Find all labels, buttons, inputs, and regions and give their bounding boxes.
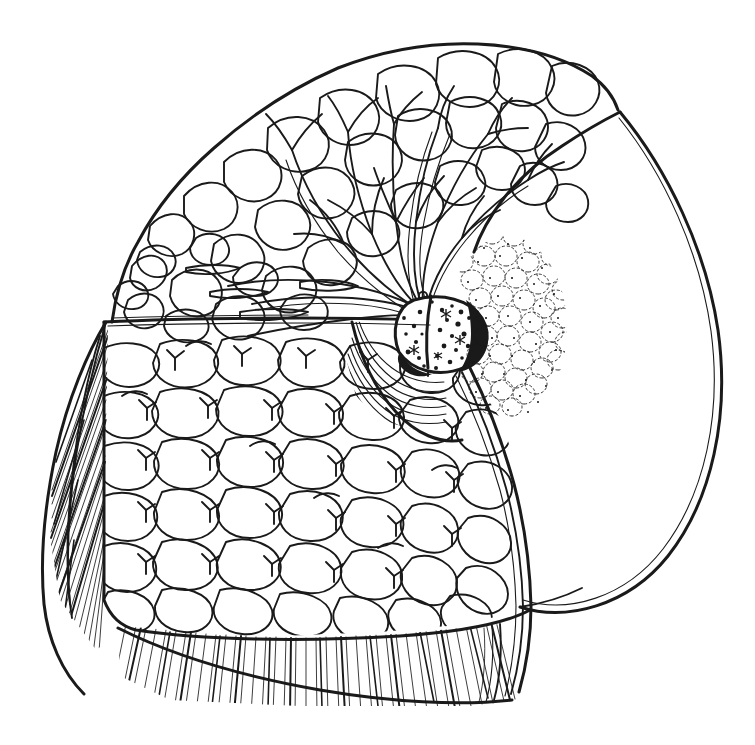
breast-cross-section-illustration: [0, 0, 755, 745]
figure-root: [0, 0, 755, 745]
